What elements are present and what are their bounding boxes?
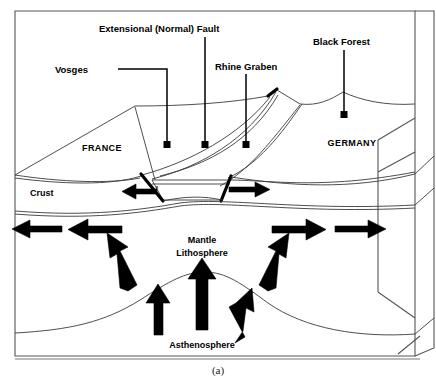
fault-marker — [202, 141, 209, 148]
label-france: FRANCE — [82, 143, 122, 153]
mantle-flow-west-inner-arrow — [68, 219, 122, 240]
asthenosphere-upwelling-left-arrow — [146, 284, 170, 335]
crust-extension-east-arrow — [229, 182, 270, 197]
label-rhine-graben: Rhine Graben — [215, 61, 277, 72]
label-mantle-lithosphere-line2: Lithosphere — [176, 248, 228, 258]
asthenosphere-upwelling-right-arrow — [229, 288, 254, 343]
leader-black-forest — [341, 50, 348, 118]
label-black-forest: Black Forest — [313, 36, 371, 47]
asthenosphere-dome — [15, 272, 434, 335]
figure-caption: (a) — [212, 364, 225, 377]
label-mantle-lithosphere-line1: Mantle — [188, 235, 217, 245]
block-diagram: Extensional (Normal) Fault Vosges Rhine … — [0, 0, 436, 380]
label-germany: GERMANY — [328, 138, 377, 148]
graben-west-normal-fault — [141, 174, 163, 201]
asthenosphere-upwelling-center-arrow — [188, 258, 216, 330]
mantle-flow-west-outer-arrow — [12, 220, 62, 238]
leader-extensional-fault — [202, 37, 209, 148]
leader-rhine-graben — [243, 74, 250, 148]
figure-container: Extensional (Normal) Fault Vosges Rhine … — [0, 0, 436, 380]
crust-layer — [15, 156, 434, 216]
mantle-flow-east-inner-arrow — [272, 219, 326, 240]
black-forest-marker — [341, 111, 348, 118]
vosges-marker — [164, 141, 171, 148]
mantle-flow-east-diagonal-arrow — [259, 233, 289, 291]
surface-topography — [15, 89, 415, 175]
label-vosges: Vosges — [55, 64, 88, 75]
label-extensional-fault: Extensional (Normal) Fault — [99, 23, 220, 34]
label-crust: Crust — [30, 188, 54, 198]
leader-vosges — [118, 69, 171, 148]
mantle-flow-west-diagonal-arrow — [107, 233, 137, 291]
label-asthenosphere: Asthenosphere — [169, 340, 235, 350]
rhine-graben-marker — [243, 141, 250, 148]
